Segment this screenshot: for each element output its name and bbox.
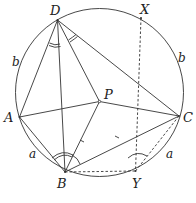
angle-mark-D-right-2 [70, 37, 78, 43]
segment-PC [100, 102, 180, 117]
circumcircle [16, 9, 184, 177]
point-A [19, 116, 21, 118]
segment-AP [20, 102, 100, 118]
label-X: X [139, 2, 150, 17]
angle-mark-Y [128, 153, 147, 158]
label-Y: Y [132, 176, 142, 191]
label-B: B [56, 176, 67, 191]
label-arc-b-left: b [12, 55, 20, 69]
label-arc-a-right: a [166, 147, 173, 161]
segment-DB [58, 20, 66, 172]
segment-BY-dashed [65, 171, 136, 172]
angle-mark-B-right [72, 155, 80, 164]
label-C: C [183, 110, 193, 125]
label-arc-b-right: b [178, 51, 186, 65]
point-D [57, 19, 59, 21]
label-P: P [103, 87, 113, 102]
segment-BP [65, 102, 100, 173]
label-A: A [3, 110, 13, 125]
angle-mark-B-left-2 [54, 155, 72, 160]
segment-XY-dashed [136, 18, 142, 171]
angle-mark-D-right-1 [69, 35, 77, 41]
point-B [64, 171, 66, 173]
tick-mark-PY [115, 136, 119, 138]
point-C [178, 115, 180, 117]
segment-AB [20, 117, 66, 172]
segment-DP [58, 20, 100, 102]
label-arc-a-left: a [29, 147, 36, 161]
point-X [140, 17, 142, 19]
label-D: D [49, 3, 61, 18]
geometry-diagram: D X b b A P C a a B Y [0, 0, 196, 203]
point-P [98, 100, 100, 102]
point-Y [135, 170, 137, 172]
diagram-canvas: D X b b A P C a a B Y [0, 0, 196, 203]
segment-YC-dashed [136, 116, 180, 171]
